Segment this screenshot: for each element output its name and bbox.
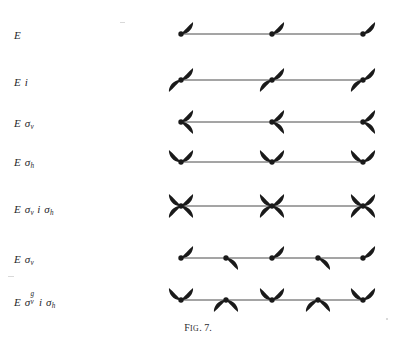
row-label-5: Eσv (14, 253, 34, 265)
motif-node-dot (269, 297, 274, 302)
row-label-4: Eσviσh (14, 203, 54, 215)
row-label-2: Eσv (14, 117, 34, 129)
label-subscript: v (30, 209, 33, 217)
row-label-6: Eσgviσh (14, 295, 55, 308)
label-subscript: h (52, 302, 56, 310)
label-glyph: E (14, 76, 21, 88)
label-glyph: i (39, 296, 42, 308)
scan-speck (8, 276, 14, 277)
caption-number: . 7. (199, 322, 212, 333)
row-label-3: Eσh (14, 156, 34, 168)
motif-node-dot (178, 31, 183, 36)
row-label-0: E (14, 29, 21, 41)
label-subsup-cluster: gv (30, 295, 35, 306)
motif-node-dot (315, 255, 320, 260)
label-glyph: E (14, 253, 21, 265)
figure-7: E Ei Eσv Eσh Eσviσh Eσv Eσgviσh FIG. 7. (0, 0, 396, 350)
scan-speck (120, 22, 125, 23)
motif-node (360, 22, 375, 37)
label-glyph: E (14, 156, 21, 168)
motif-node-dot (223, 297, 228, 302)
motif-node-dot (269, 203, 274, 208)
label-glyph: i (25, 76, 28, 88)
label-subscript: h (30, 162, 34, 170)
label-glyph: i (37, 203, 40, 215)
label-subscript: v (30, 123, 33, 131)
label-subscript: h (50, 209, 54, 217)
motif-node-dot (269, 119, 274, 124)
motif-node-dot (178, 203, 183, 208)
motif-node-dot (360, 31, 365, 36)
label-glyph: E (14, 117, 21, 129)
label-subscript: v (30, 259, 33, 267)
motif-node-dot (360, 77, 365, 82)
motif-node-dot (360, 255, 365, 260)
scan-speck (386, 318, 388, 320)
motif-node-dot (178, 159, 183, 164)
motif-node-dot (223, 255, 228, 260)
motif-node (360, 246, 375, 261)
row-diagram-4 (160, 178, 396, 234)
motif-node-dot (360, 203, 365, 208)
motif-node-dot (178, 77, 183, 82)
label-glyph: σ (46, 296, 52, 308)
motif-node-dot (315, 297, 320, 302)
row-diagram-6 (160, 272, 396, 328)
motif-diagram (160, 272, 396, 328)
motif-node-dot (269, 31, 274, 36)
motif-node-dot (360, 159, 365, 164)
motif-node-dot (269, 159, 274, 164)
motif-node-dot (360, 297, 365, 302)
motif-node-dot (360, 119, 365, 124)
label-superscript: g (30, 290, 34, 298)
row-label-1: Ei (14, 76, 28, 88)
label-subscript: v (30, 298, 34, 306)
motif-diagram (160, 178, 396, 234)
motif-node-dot (178, 119, 183, 124)
motif-node-dot (269, 255, 274, 260)
label-glyph: E (14, 29, 21, 41)
motif-node (360, 110, 375, 134)
label-glyph: E (14, 203, 21, 215)
motif-node-dot (269, 77, 274, 82)
motif-node-dot (178, 297, 183, 302)
caption-smallcaps: IG (190, 324, 199, 333)
label-glyph: E (14, 296, 21, 308)
motif-node-dot (178, 255, 183, 260)
figure-caption: FIG. 7. (0, 322, 396, 333)
